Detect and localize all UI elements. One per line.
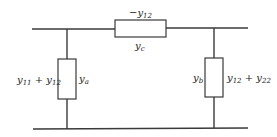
left-shunt-value-label: y11 + y12: [16, 74, 61, 87]
bottom-wire: [33, 128, 248, 129]
right-shunt-element-yb: [205, 58, 223, 97]
pi-network-diagram: −y12 yc y11 + y12 ya yb y12 + y22: [0, 0, 277, 137]
series-value-label: −y12: [129, 7, 152, 20]
right-shunt-name-label: yb: [192, 72, 204, 85]
left-shunt-name-label: ya: [78, 73, 89, 86]
series-name-label: yc: [134, 40, 145, 53]
series-element-yc: [115, 20, 166, 37]
right-shunt-value-label: y12 + y22: [226, 72, 271, 85]
